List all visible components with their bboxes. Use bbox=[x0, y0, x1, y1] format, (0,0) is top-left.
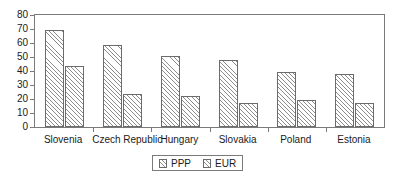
y-tick-label: 30 bbox=[0, 79, 28, 90]
x-tick-label: Slovakia bbox=[209, 133, 267, 146]
bar-eur bbox=[355, 103, 374, 127]
bar-eur bbox=[65, 66, 84, 127]
x-tick-label: Hungary bbox=[150, 133, 208, 146]
x-tick-mark bbox=[326, 128, 327, 132]
chart-legend: PPP EUR bbox=[152, 155, 243, 171]
x-tick-mark bbox=[93, 128, 94, 132]
y-tick-label: 80 bbox=[0, 9, 28, 20]
bar-chart-figure: 80706050403020100 SloveniaCzech Republic… bbox=[0, 0, 397, 177]
x-tick-label: Slovenia bbox=[34, 133, 92, 146]
bar-eur bbox=[239, 103, 258, 127]
y-tick-label: 20 bbox=[0, 93, 28, 104]
bar-group bbox=[219, 15, 258, 127]
bar-eur bbox=[181, 96, 200, 128]
y-tick-label: 10 bbox=[0, 107, 28, 118]
bar-group bbox=[161, 15, 200, 127]
bar-ppp bbox=[103, 45, 122, 127]
x-tick-label: Poland bbox=[267, 133, 325, 146]
legend-item-ppp[interactable]: PPP bbox=[159, 158, 191, 169]
legend-item-label: PPP bbox=[171, 158, 191, 169]
bar-ppp bbox=[45, 30, 64, 127]
bar-ppp bbox=[219, 60, 238, 127]
bar-ppp bbox=[161, 56, 180, 127]
bar-group bbox=[45, 15, 84, 127]
y-tick-label: 70 bbox=[0, 23, 28, 34]
bar-group bbox=[335, 15, 374, 127]
y-tick-label: 60 bbox=[0, 37, 28, 48]
bar-group bbox=[103, 15, 142, 127]
y-tick-label: 40 bbox=[0, 65, 28, 76]
x-tick-label: Estonia bbox=[325, 133, 383, 146]
x-axis-labels: SloveniaCzech RepublicHungarySlovakiaPol… bbox=[34, 133, 385, 149]
bar-ppp bbox=[335, 74, 354, 127]
legend-item-label: EUR bbox=[215, 158, 236, 169]
x-tick-mark bbox=[151, 128, 152, 132]
bar-eur bbox=[123, 94, 142, 127]
legend-item-eur[interactable]: EUR bbox=[203, 158, 236, 169]
bars-layer bbox=[35, 15, 384, 127]
x-tick-label: Czech Republic bbox=[92, 133, 150, 146]
hatched-swatch-icon bbox=[203, 159, 211, 168]
y-tick-label: 0 bbox=[0, 121, 28, 132]
bar-ppp bbox=[277, 72, 296, 127]
bar-eur bbox=[297, 100, 316, 127]
y-tick-label: 50 bbox=[0, 51, 28, 62]
y-axis-labels: 80706050403020100 bbox=[0, 8, 28, 134]
bar-group bbox=[277, 15, 316, 127]
x-tick-mark bbox=[268, 128, 269, 132]
hatched-swatch-icon bbox=[159, 159, 167, 168]
x-tick-mark bbox=[210, 128, 211, 132]
